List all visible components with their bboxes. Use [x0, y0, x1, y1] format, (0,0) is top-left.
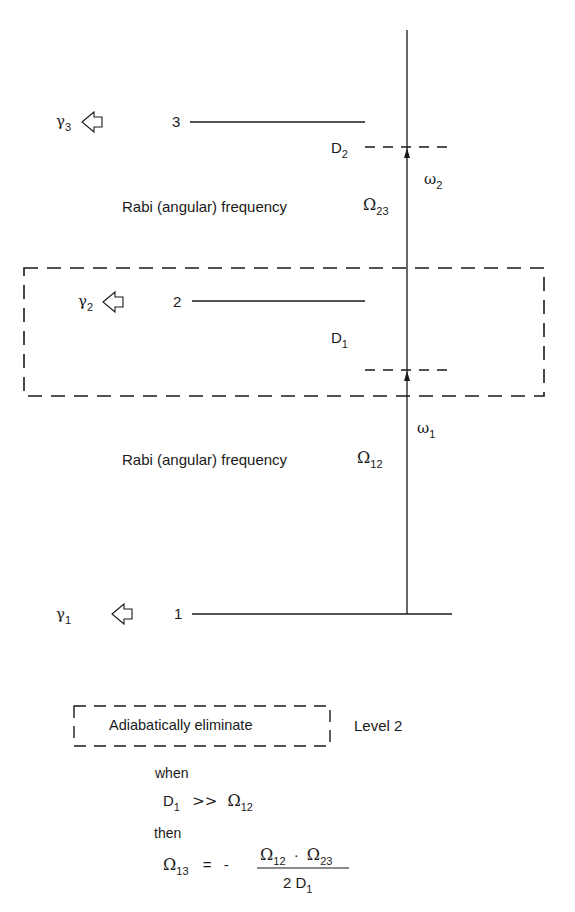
omega-1-label: ω1	[417, 421, 435, 436]
level-1-label: 1	[174, 606, 182, 621]
gamma-3-label: γ3	[56, 114, 71, 129]
rabi-23-symbol: Ω23	[363, 197, 389, 213]
decay-arrow-2-icon	[103, 292, 123, 312]
when-label: when	[155, 766, 188, 780]
detuning-d2-label: D2	[331, 140, 348, 155]
gamma-2-label: γ2	[78, 294, 93, 309]
condition-expression: D1 >> Ω12	[163, 793, 253, 809]
level-2-label: 2	[173, 294, 181, 309]
adiabatic-elimination-text: Adiabatically eliminate	[109, 718, 252, 733]
arrow-omega1-icon	[404, 371, 410, 381]
result-lhs: Ω13 = -	[163, 857, 229, 873]
diagram-lines	[0, 0, 575, 912]
gamma-1-label: γ1	[56, 607, 71, 622]
arrow-omega2-icon	[404, 148, 410, 158]
fraction-numerator: Ω12 · Ω23	[260, 847, 332, 863]
elimination-box	[24, 268, 544, 396]
level-3-label: 3	[172, 114, 180, 129]
rabi-12-symbol: Ω12	[357, 450, 383, 466]
decay-arrow-3-icon	[82, 112, 102, 132]
decay-arrow-1-icon	[112, 604, 132, 624]
level-2-target-text: Level 2	[354, 718, 402, 733]
then-label: then	[154, 826, 181, 840]
detuning-d1-label: D1	[331, 330, 348, 345]
fraction-denominator: 2 D1	[283, 875, 312, 890]
rabi-23-label: Rabi (angular) frequency	[122, 199, 287, 214]
omega-2-label: ω2	[424, 172, 442, 187]
rabi-12-label: Rabi (angular) frequency	[122, 452, 287, 467]
